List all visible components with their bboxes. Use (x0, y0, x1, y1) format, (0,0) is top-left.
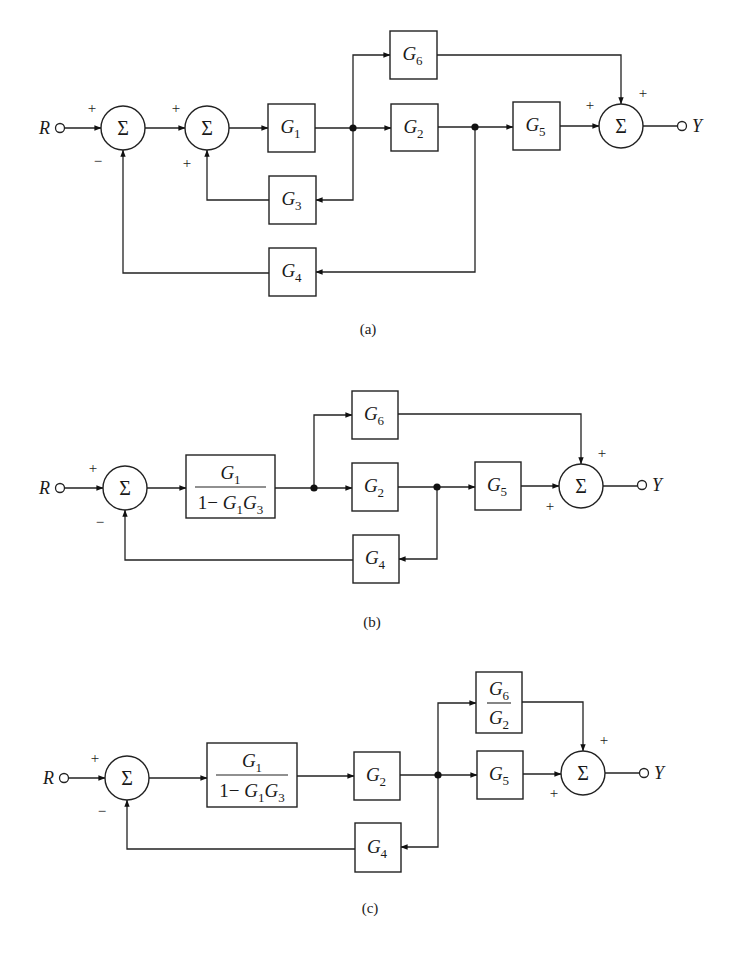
block-f1: G11− G1G3 (207, 743, 297, 807)
plus-sign: + (546, 498, 554, 514)
output-label: Y (652, 475, 664, 495)
signal-line (401, 775, 438, 847)
figure-caption: (a) (360, 321, 377, 338)
branch-point (434, 771, 441, 778)
sigma-symbol: Σ (575, 475, 587, 497)
plus-sign: + (550, 785, 558, 801)
summing-junction: Σ++ (546, 445, 606, 514)
output-terminal (640, 769, 649, 778)
summing-junction: Σ+− (91, 750, 149, 819)
branch-point (349, 124, 356, 131)
sigma-symbol: Σ (121, 767, 133, 789)
signal-line (123, 150, 269, 273)
input-terminal (56, 484, 65, 493)
block-g5: G5 (513, 102, 560, 150)
diagram-c: G11− G1G3G2G6G2G5G4Σ+−Σ++RY(c) (42, 672, 666, 917)
signal-line (314, 415, 352, 488)
output-terminal (678, 122, 687, 131)
diagram-a: G1G6G2G5G3G4Σ+−Σ++Σ++RY(a) (38, 31, 704, 338)
input-label: R (38, 118, 50, 138)
block-g2: G2 (391, 104, 438, 151)
signal-line (522, 702, 583, 751)
signal-line (316, 128, 353, 200)
signal-line (399, 487, 437, 559)
output-terminal (638, 481, 647, 490)
input-label: R (42, 768, 54, 788)
plus-sign: + (91, 750, 99, 766)
block-g6: G6 (390, 31, 437, 79)
signal-line (207, 150, 269, 200)
sigma-symbol: Σ (577, 762, 589, 784)
output-label: Y (654, 763, 666, 783)
input-label: R (38, 478, 50, 498)
sigma-symbol: Σ (615, 115, 627, 137)
block-g2: G2 (354, 752, 400, 800)
input-terminal (56, 124, 65, 133)
signal-line (438, 703, 476, 775)
block-g5: G5 (477, 751, 523, 799)
block-g6: G6 (352, 391, 398, 439)
summing-junction: Σ+− (88, 100, 145, 169)
plus-sign: + (172, 100, 180, 116)
summing-junction: Σ++ (586, 85, 647, 148)
output-label: Y (692, 116, 704, 136)
block-f2: G6G2 (476, 672, 522, 733)
minus-sign: − (98, 803, 106, 819)
figure-caption: (b) (363, 614, 381, 631)
figure-caption: (c) (362, 900, 379, 917)
plus-sign: + (598, 445, 606, 461)
summing-junction: Σ++ (172, 100, 229, 171)
minus-sign: − (94, 153, 102, 169)
sigma-symbol: Σ (119, 477, 131, 499)
block-g1: G1 (268, 104, 315, 152)
sigma-symbol: Σ (117, 117, 129, 139)
plus-sign: + (88, 100, 96, 116)
branch-point (310, 484, 317, 491)
block-g4: G4 (353, 535, 399, 583)
block-g4: G4 (355, 823, 401, 872)
input-terminal (60, 774, 69, 783)
signal-line (353, 55, 390, 128)
summing-junction: Σ++ (550, 732, 608, 801)
block-g2: G2 (352, 463, 398, 511)
sigma-symbol: Σ (201, 117, 213, 139)
block-f1: G11− G1G3 (186, 455, 275, 518)
plus-sign: + (600, 732, 608, 748)
plus-sign: + (639, 85, 647, 101)
branch-point (471, 123, 478, 130)
signal-line (398, 414, 581, 464)
plus-sign: + (586, 97, 594, 113)
block-g5: G5 (475, 462, 521, 510)
diagram-b: G11− G1G3G6G2G5G4Σ+−Σ++RY(b) (38, 391, 664, 631)
block-g3: G3 (269, 176, 316, 224)
plus-sign: + (89, 460, 97, 476)
block-g4: G4 (269, 248, 316, 296)
summing-junction: Σ+− (89, 460, 147, 530)
minus-sign: − (96, 514, 104, 530)
plus-sign: + (183, 155, 191, 171)
block-diagram-figure: G1G6G2G5G3G4Σ+−Σ++Σ++RY(a) G11− G1G3G6G2… (0, 0, 734, 954)
branch-point (433, 483, 440, 490)
